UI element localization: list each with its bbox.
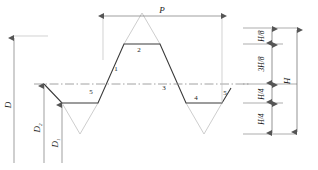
major-diameter-label: D [3, 101, 13, 109]
pitch-label: P [158, 5, 165, 15]
thread-profile-diagram: P D D2 D1 [0, 0, 318, 170]
pitch-diameter-label: D2 [32, 123, 43, 134]
profile-marker-2: 2 [137, 46, 141, 54]
profile-marker-1: 1 [114, 65, 118, 73]
construction-triangle-valley-left [62, 103, 98, 134]
minor-diameter-label: D1 [50, 139, 61, 149]
height-division-label-1: H/8 [257, 30, 266, 43]
profile-marker-4: 4 [194, 94, 198, 102]
height-division-label-4: H/4 [257, 113, 266, 126]
diagram-canvas: P D D2 D1 [0, 0, 318, 170]
height-division-label-2: 3H/8 [257, 56, 266, 72]
height-division-label-3: H/4 [257, 88, 266, 101]
construction-triangle-apex [124, 13, 160, 44]
profile-marker-3: 3 [162, 84, 166, 92]
major-diameter-dimension [14, 36, 48, 163]
profile-marker-5-left: 5 [89, 88, 93, 96]
profile-marker-5-right: 5 [223, 89, 227, 97]
construction-triangle-valley-right [186, 103, 222, 134]
total-height-label: H [282, 77, 292, 85]
